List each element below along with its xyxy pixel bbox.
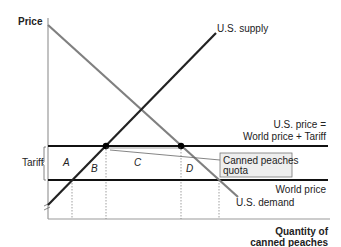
- area-d-label: D: [186, 163, 193, 174]
- tariff-label: Tariff: [22, 157, 44, 168]
- quota-label-1: Canned peaches: [223, 155, 299, 166]
- quota-label-2: quota: [223, 165, 248, 176]
- quota-callout-line: [110, 150, 220, 160]
- tariff-chart: Canned peaches quota Tariff A B C D U.S.…: [0, 0, 341, 247]
- x-axis-title-2: canned peaches: [250, 237, 328, 247]
- x-axis-title-1: Quantity of: [275, 226, 328, 237]
- us-price-label-2: World price + Tariff: [243, 131, 326, 142]
- y-axis-title: Price: [18, 16, 43, 27]
- world-price-label: World price: [276, 184, 327, 195]
- demand-curve: [48, 25, 238, 197]
- demand-label: U.S. demand: [236, 197, 294, 208]
- us-price-label-1: U.S. price =: [273, 119, 326, 130]
- supply-label: U.S. supply: [217, 23, 268, 34]
- area-c-label: C: [134, 157, 142, 168]
- area-a-label: A: [62, 157, 70, 168]
- area-b-label: B: [91, 163, 98, 174]
